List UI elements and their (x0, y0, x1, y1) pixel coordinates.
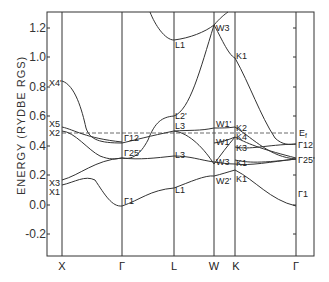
y-tick-label: 0.8 (29, 80, 46, 94)
point-label: W1' (216, 119, 232, 129)
point-label: K1 (236, 158, 247, 168)
y-axis-label: ENERGY (RYDBE RGS) (15, 56, 27, 195)
point-label: L1 (175, 40, 185, 50)
y-tick-label: 0.4 (29, 139, 46, 153)
point-label: L3 (175, 121, 185, 131)
y-tick-label: 1.0 (29, 50, 46, 64)
band-structure-chart: 1.2 1.0 0.8 0.6 0.4 0.2 0.0 -0.2 ENERGY … (0, 0, 329, 282)
x-label: K (232, 260, 240, 272)
point-label: Γ25' (124, 148, 141, 158)
point-label: L2' (175, 111, 187, 121)
point-label: W1 (216, 137, 230, 147)
x-label: X (58, 260, 66, 272)
point-label: L3 (175, 150, 185, 160)
point-label: X4' (49, 78, 62, 88)
point-label: K1 (236, 51, 247, 61)
x-label: L (171, 260, 177, 272)
point-label: K4 (236, 132, 247, 142)
point-label: W2' (216, 176, 232, 186)
point-label: L1 (175, 185, 185, 195)
y-tick-label: -0.2 (25, 227, 46, 241)
fermi-label: Ef (299, 128, 307, 139)
x-label: W (209, 260, 220, 272)
y-tick-label: 0.2 (29, 168, 46, 182)
point-label: X1 (49, 187, 60, 197)
point-label: X2 (49, 128, 60, 138)
point-label: K1 (236, 174, 247, 184)
x-label: Γ (293, 260, 299, 272)
point-label: W3 (216, 157, 230, 167)
point-label: Γ12 (124, 133, 139, 143)
y-tick-label: 1.2 (29, 21, 46, 35)
point-label: Γ25' (298, 155, 315, 165)
point-label: W3 (216, 23, 230, 33)
y-tick-labels: 1.2 1.0 0.8 0.6 0.4 0.2 0.0 -0.2 (25, 21, 46, 241)
y-tick-label: 0.0 (29, 198, 46, 212)
point-label: Γ1 (124, 196, 134, 206)
y-tick-label: 0.6 (29, 109, 46, 123)
x-label: Γ (119, 260, 125, 272)
x-symmetry-labels: X Γ L W K Γ (58, 260, 299, 272)
y-axis-ticks (47, 28, 296, 234)
point-label: K3 (236, 143, 247, 153)
point-label: Γ12 (298, 140, 313, 150)
point-label: Γ1 (298, 189, 308, 199)
